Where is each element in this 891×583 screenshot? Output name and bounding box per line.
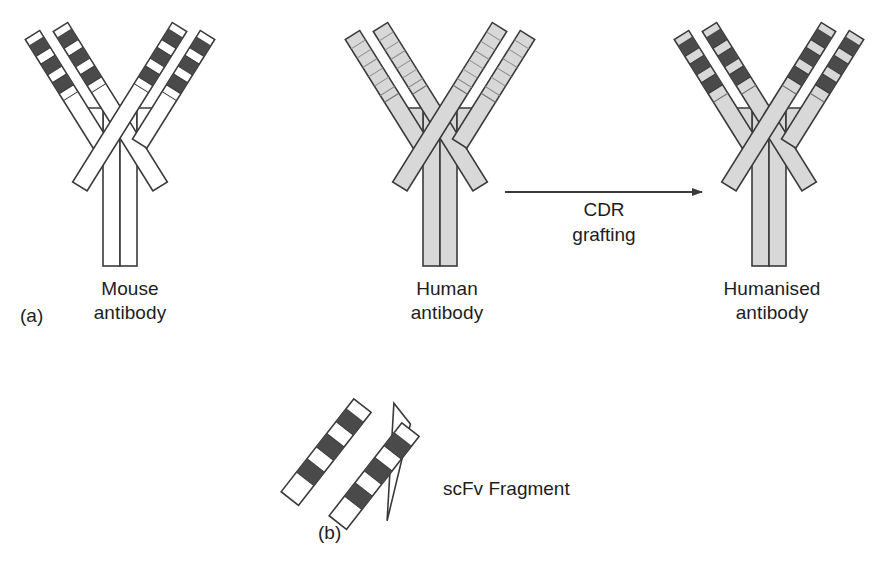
- panel-tag-a: (a): [20, 305, 43, 327]
- human-antibody-label-line2: antibody: [411, 302, 484, 323]
- mouse-antibody: [25, 22, 214, 266]
- cdr-grafting-label: CDRgrafting: [534, 198, 674, 247]
- humanised-antibody-label: Humanisedantibody: [672, 277, 872, 325]
- scfv-fragment-label: scFv Fragment: [443, 478, 570, 500]
- humanised-antibody: [674, 22, 863, 266]
- humanised-antibody-label-line2: antibody: [736, 302, 809, 323]
- human-antibody-label-line1: Human: [416, 278, 478, 299]
- cdr-grafting-label-line2: grafting: [572, 224, 635, 245]
- antibody-figure: Mouseantibody Humanantibody Humanisedant…: [0, 0, 891, 583]
- mouse-antibody-label-line1: Mouse: [101, 278, 159, 299]
- panel-tag-b: (b): [318, 522, 341, 544]
- humanised-antibody-label-line1: Humanised: [723, 278, 820, 299]
- scfv-fragment: [281, 399, 419, 530]
- human-antibody: [345, 22, 534, 266]
- mouse-antibody-label: Mouseantibody: [35, 277, 225, 325]
- cdr-grafting-label-line1: CDR: [583, 199, 624, 220]
- mouse-antibody-label-line2: antibody: [94, 302, 167, 323]
- human-antibody-label: Humanantibody: [352, 277, 542, 325]
